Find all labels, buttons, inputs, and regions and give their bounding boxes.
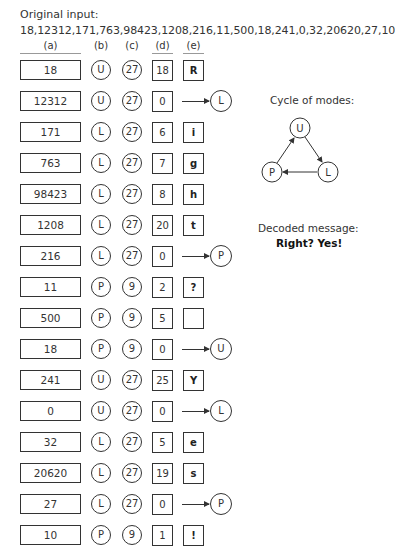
input-value-box: 500 — [20, 308, 81, 328]
decoded-char-box: e — [183, 432, 204, 453]
column-header-d: (d) — [152, 40, 173, 51]
mode-circle: L — [91, 246, 111, 266]
mode-circle: P — [91, 339, 111, 359]
remainder-box: 25 — [152, 370, 173, 391]
mode-circle: U — [91, 370, 111, 390]
arrow-right-icon — [182, 411, 209, 412]
decoded-char-box: Y — [183, 370, 204, 391]
mode-switch-circle: P — [210, 245, 232, 267]
column-underline-a — [20, 53, 81, 54]
modulus-circle: 27 — [122, 184, 142, 204]
input-value-box: 0 — [20, 401, 81, 421]
input-value-box: 1208 — [20, 215, 81, 235]
modulus-circle: 27 — [122, 494, 142, 514]
input-value-box: 171 — [20, 122, 81, 142]
mode-circle: L — [91, 122, 111, 142]
column-header-a: (a) — [20, 40, 81, 51]
remainder-box: 20 — [152, 215, 173, 236]
mode-cycle-diagram: U P L — [260, 115, 340, 185]
modulus-circle: 27 — [122, 122, 142, 142]
modulus-circle: 9 — [122, 339, 142, 359]
table-row: 0U270L — [0, 401, 250, 423]
modulus-circle: 27 — [122, 246, 142, 266]
cycle-node-l: L — [325, 167, 331, 178]
input-value-box: 763 — [20, 153, 81, 173]
decoded-char-box: g — [183, 153, 204, 174]
arrow-right-icon — [182, 256, 209, 257]
mode-circle: L — [91, 215, 111, 235]
mode-switch-circle: U — [210, 338, 232, 360]
input-value-box: 18 — [20, 60, 81, 80]
arrow-right-icon — [182, 504, 209, 505]
mode-circle: L — [91, 153, 111, 173]
remainder-box: 0 — [152, 401, 173, 422]
table-row: 1208L2720t — [0, 215, 250, 237]
modulus-circle: 27 — [122, 432, 142, 452]
table-row: 500P95 — [0, 308, 250, 330]
remainder-box: 8 — [152, 184, 173, 205]
decoded-char-box: i — [183, 122, 204, 143]
input-value-box: 18 — [20, 339, 81, 359]
modulus-circle: 9 — [122, 277, 142, 297]
modulus-circle: 9 — [122, 525, 142, 545]
column-header-c: (c) — [122, 40, 142, 51]
remainder-box: 5 — [152, 432, 173, 453]
remainder-box: 0 — [152, 494, 173, 515]
remainder-box: 19 — [152, 463, 173, 484]
mode-switch-circle: P — [210, 493, 232, 515]
column-underline-e — [183, 53, 204, 54]
modulus-circle: 27 — [122, 60, 142, 80]
table-row: 27L270P — [0, 494, 250, 516]
remainder-box: 7 — [152, 153, 173, 174]
table-row: 763L277g — [0, 153, 250, 175]
mode-circle: P — [91, 277, 111, 297]
modulus-circle: 27 — [122, 463, 142, 483]
remainder-box: 18 — [152, 60, 173, 81]
remainder-box: 1 — [152, 525, 173, 546]
table-row: 32L275e — [0, 432, 250, 454]
mode-circle: L — [91, 432, 111, 452]
arrow-right-icon — [182, 101, 209, 102]
column-header-b: (b) — [91, 40, 111, 51]
table-row: 12312U270L — [0, 91, 250, 113]
mode-switch-circle: L — [210, 90, 232, 112]
mode-circle: U — [91, 60, 111, 80]
mode-circle: U — [91, 401, 111, 421]
input-value-box: 98423 — [20, 184, 81, 204]
mode-circle: L — [91, 494, 111, 514]
input-value-box: 27 — [20, 494, 81, 514]
table-row: 216L270P — [0, 246, 250, 268]
mode-circle: L — [91, 463, 111, 483]
mode-circle: U — [91, 91, 111, 111]
remainder-box: 0 — [152, 246, 173, 267]
table-row: 11P92? — [0, 277, 250, 299]
decoded-char-box — [183, 308, 204, 329]
input-sequence: 18,12312,171,763,98423,1208,216,11,500,1… — [20, 24, 395, 37]
table-row: 98423L278h — [0, 184, 250, 206]
modulus-circle: 27 — [122, 91, 142, 111]
decoded-char-box: h — [183, 184, 204, 205]
modulus-circle: 27 — [122, 370, 142, 390]
input-title: Original input: — [20, 8, 99, 21]
table-row: 20620L2719s — [0, 463, 250, 485]
cycle-node-p: P — [269, 167, 275, 178]
column-header-e: (e) — [183, 40, 204, 51]
decoded-char-box: ! — [183, 525, 204, 546]
remainder-box: 2 — [152, 277, 173, 298]
decoded-char-box: R — [183, 60, 204, 81]
remainder-box: 6 — [152, 122, 173, 143]
arrow-right-icon — [182, 349, 209, 350]
input-value-box: 216 — [20, 246, 81, 266]
mode-circle: P — [91, 308, 111, 328]
input-value-box: 11 — [20, 277, 81, 297]
mode-switch-circle: L — [210, 400, 232, 422]
remainder-box: 0 — [152, 91, 173, 112]
column-underline-d — [152, 53, 173, 54]
mode-circle: L — [91, 184, 111, 204]
cycle-title: Cycle of modes: — [270, 94, 354, 106]
input-value-box: 20620 — [20, 463, 81, 483]
table-row: 18U2718R — [0, 60, 250, 82]
table-row: 241U2725Y — [0, 370, 250, 392]
decoded-message: Right? Yes! — [276, 237, 342, 249]
decoded-label: Decoded message: — [258, 222, 359, 234]
